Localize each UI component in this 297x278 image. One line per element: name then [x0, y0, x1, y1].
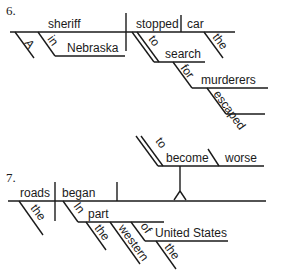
infinitive-word: become: [166, 151, 209, 165]
complement-word: worse: [224, 151, 257, 165]
verb-word: began: [62, 186, 95, 200]
diagram-7-number: 7.: [6, 170, 16, 185]
participle-word: escaped: [211, 88, 249, 133]
diagram-6: 6. sheriff stopped car A in Nebraska the…: [6, 3, 268, 132]
stilt-foot-left: [174, 191, 180, 200]
object-article-word: the: [210, 31, 231, 53]
infinitive-marker-word: to: [153, 135, 170, 152]
sentence-diagrams: 6. sheriff stopped car A in Nebraska the…: [0, 0, 297, 278]
subject-article-word: the: [28, 202, 49, 224]
prep1-article-word: the: [92, 222, 113, 244]
article-word: A: [22, 37, 38, 52]
infinitive-word: search: [165, 47, 201, 61]
complement-slant: [208, 149, 219, 166]
prep1-object-word: part: [88, 207, 109, 221]
for-object-word: murderers: [201, 73, 256, 87]
subject-word: roads: [20, 186, 50, 200]
object-word: car: [187, 17, 204, 31]
for-word: for: [178, 62, 198, 82]
stilt-foot-right: [180, 191, 186, 200]
verb-word: stopped: [136, 17, 179, 31]
diagram-7: 7. to become worse roads began the In pa…: [6, 135, 266, 269]
subject-word: sheriff: [48, 17, 81, 31]
diagram-6-number: 6.: [6, 3, 16, 18]
prep2-article-word: the: [162, 241, 183, 263]
prep1-word: In: [71, 200, 88, 216]
prep2-object-word: United States: [155, 226, 227, 240]
prep-object-word: Nebraska: [67, 41, 119, 55]
